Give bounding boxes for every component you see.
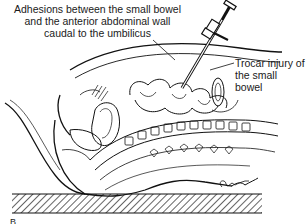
- pelvic-organs: [62, 90, 120, 160]
- annotation-line: and the anterior abdominal wall: [10, 15, 185, 27]
- adhesion-band: [92, 85, 108, 101]
- annotation-line: Adhesions between the small bowel: [10, 3, 185, 15]
- annotation-line: caudal to the umbilicus: [10, 27, 185, 39]
- operating-table: [12, 194, 262, 213]
- panel-label: B: [10, 216, 16, 224]
- annotation-line: Trocar injury of: [235, 57, 307, 69]
- annotation-line: the small bowel: [235, 69, 307, 93]
- annotation-adhesions: Adhesions between the small bowel and th…: [10, 3, 185, 39]
- annotation-trocar-injury: Trocar injury of the small bowel: [235, 57, 307, 93]
